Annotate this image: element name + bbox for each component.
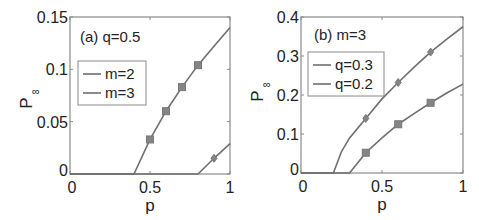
square-marker bbox=[195, 62, 202, 69]
svg-text:P: P bbox=[248, 90, 267, 101]
y-tick-label: 0 bbox=[290, 161, 299, 178]
y-tick-label: 0.3 bbox=[277, 48, 299, 65]
legend-entry: m=2 bbox=[105, 65, 135, 82]
y-tick-label: 0.15 bbox=[37, 9, 68, 26]
chart-a-svg: 00.5100.050.10.15pP∞(a) q=0.5m=2m=3 bbox=[0, 0, 240, 220]
svg-text:P: P bbox=[17, 97, 36, 108]
x-tick-label: 0 bbox=[299, 178, 308, 195]
chart-panel-a: 00.5100.050.10.15pP∞(a) q=0.5m=2m=3 bbox=[0, 0, 240, 220]
panel-annotation: (b) m=3 bbox=[314, 26, 366, 43]
y-tick-label: 0 bbox=[59, 162, 68, 179]
square-marker bbox=[427, 99, 434, 106]
chart-b-svg: 00.5100.10.20.30.4pP∞(b) m=3q=0.3q=0.2 bbox=[240, 0, 479, 220]
y-tick-label: 0.2 bbox=[277, 87, 299, 104]
x-tick-label: 1 bbox=[226, 179, 235, 196]
legend-entry: q=0.2 bbox=[335, 75, 373, 92]
x-axis-label: p bbox=[377, 195, 386, 214]
square-marker bbox=[362, 149, 369, 156]
y-tick-label: 0.05 bbox=[37, 114, 68, 131]
square-marker bbox=[395, 121, 402, 128]
y-tick-label: 0.1 bbox=[277, 126, 299, 143]
svg-text:∞: ∞ bbox=[263, 78, 271, 90]
chart-panel-b: 00.5100.10.20.30.4pP∞(b) m=3q=0.3q=0.2 bbox=[240, 0, 479, 220]
y-axis-label: P∞ bbox=[248, 78, 271, 102]
x-tick-label: 0.5 bbox=[371, 178, 393, 195]
legend-entry: q=0.3 bbox=[335, 56, 373, 73]
legend-entry: m=3 bbox=[105, 84, 135, 101]
y-tick-label: 0.1 bbox=[46, 61, 68, 78]
svg-text:∞: ∞ bbox=[32, 85, 40, 97]
square-marker bbox=[163, 108, 170, 115]
y-axis-label: P∞ bbox=[17, 85, 40, 109]
square-marker bbox=[147, 136, 154, 143]
x-axis-label: p bbox=[145, 196, 154, 215]
square-marker bbox=[179, 84, 186, 91]
x-tick-label: 1 bbox=[459, 178, 468, 195]
y-tick-label: 0.4 bbox=[277, 9, 299, 26]
x-tick-label: 0 bbox=[68, 179, 77, 196]
x-tick-label: 0.5 bbox=[139, 179, 161, 196]
panel-annotation: (a) q=0.5 bbox=[80, 28, 140, 45]
